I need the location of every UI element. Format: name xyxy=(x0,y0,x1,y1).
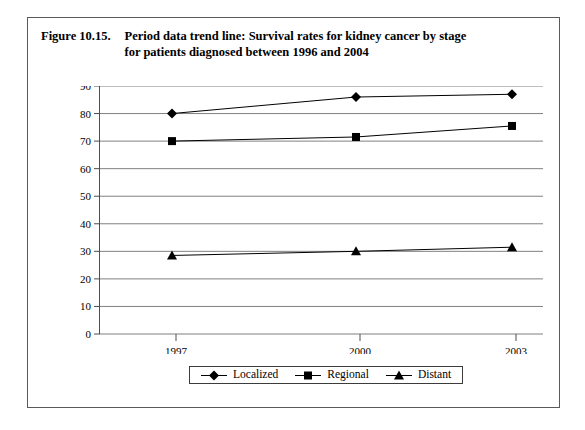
figure-number: Figure 10.15. xyxy=(41,28,125,44)
y-axis-tick-label: 50 xyxy=(80,190,92,202)
x-axis-tick-label: 1997 xyxy=(165,345,188,354)
series-line xyxy=(172,126,512,141)
series-regional xyxy=(168,122,516,145)
data-point xyxy=(507,89,517,99)
y-axis-tick-label: 10 xyxy=(80,300,92,312)
figure-caption: Figure 10.15. Period data trend line: Su… xyxy=(41,28,541,60)
chart-legend: LocalizedRegionalDistant xyxy=(189,366,463,384)
legend-marker xyxy=(304,371,312,379)
legend-marker-diamond-icon xyxy=(201,370,227,381)
data-series-layer xyxy=(167,89,517,259)
y-axis-tick-label: 0 xyxy=(86,328,92,340)
legend-entry-distant: Distant xyxy=(386,369,451,381)
chart-plot-area: 0102030405060708090 199720002003 xyxy=(71,86,543,354)
y-axis-tick-label: 60 xyxy=(80,163,92,175)
legend-entry-regional: Regional xyxy=(295,369,369,381)
y-axis-tick-label: 80 xyxy=(80,108,92,120)
x-axis-ticks xyxy=(176,334,516,341)
y-axis-tick-label: 70 xyxy=(80,135,92,147)
series-localized xyxy=(167,89,517,118)
legend-label: Distant xyxy=(418,369,451,381)
legend-marker-square-icon xyxy=(295,370,321,381)
x-axis-tick-label: 2000 xyxy=(349,345,372,354)
legend-entry-localized: Localized xyxy=(201,369,278,381)
y-axis-tick-label: 20 xyxy=(80,273,92,285)
data-point xyxy=(507,242,517,251)
y-axis-tick-label: 30 xyxy=(80,245,92,257)
gridlines xyxy=(100,86,543,334)
figure-title: Period data trend line: Survival rates f… xyxy=(125,28,541,60)
legend-marker-triangle-icon xyxy=(386,370,412,381)
series-line xyxy=(172,94,512,113)
y-axis-tick-labels: 0102030405060708090 xyxy=(80,86,92,340)
x-axis-tick-labels: 199720002003 xyxy=(165,345,528,354)
legend-marker xyxy=(209,370,219,380)
x-axis-tick-label: 2003 xyxy=(505,345,528,354)
data-point xyxy=(168,137,176,145)
legend-label: Localized xyxy=(233,369,278,381)
figure-title-line-1: Period data trend line: Survival rates f… xyxy=(125,28,541,44)
data-point xyxy=(508,122,516,130)
data-point xyxy=(351,92,361,102)
data-point xyxy=(352,133,360,141)
legend-label: Regional xyxy=(327,369,369,381)
y-axis-tick-label: 40 xyxy=(80,218,92,230)
figure-title-line-2: for patients diagnosed between 1996 and … xyxy=(125,44,541,60)
y-axis-tick-label: 90 xyxy=(80,86,92,92)
line-chart: 0102030405060708090 199720002003 xyxy=(71,86,543,354)
figure-frame: Figure 10.15. Period data trend line: Su… xyxy=(27,17,560,408)
data-point xyxy=(167,109,177,119)
